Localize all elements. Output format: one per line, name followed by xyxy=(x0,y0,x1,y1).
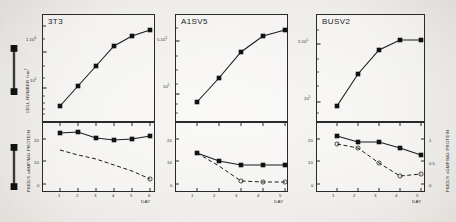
panel-3t3-lower-ytick-20: 20 xyxy=(34,138,39,143)
panel-busv2-upper-ytick-1e5: 105 xyxy=(304,95,310,101)
panel-3t3-upper-ytick-1e5: 105 xyxy=(30,77,36,83)
panel-3t3-lower-ytick-10: 10 xyxy=(34,160,39,165)
panel-busv2-upper-svg xyxy=(316,14,425,122)
panel-busv2-right-yaxis-label: PMOLS cGMP/MG PROTEIN xyxy=(445,130,450,193)
panel-a1sv5-xaxis-label: DAY xyxy=(274,199,283,204)
panel-a1sv5: A1SV5 5.105 105 20 10 0 DAY 1 2 3 4 5 xyxy=(155,0,305,222)
panel-busv2-xtick-5: 5 xyxy=(416,193,418,198)
panel-busv2-lower-svg xyxy=(316,122,425,192)
panel-3t3-upper-svg xyxy=(42,14,155,122)
panel-a1sv5-lower-svg xyxy=(175,122,288,192)
panel-busv2-lower-ytick-10: 10 xyxy=(308,160,313,165)
panel-3t3-upper-yaxis-label: CELL NUMBER /cm2 xyxy=(24,68,30,113)
panel-a1sv5-xtick-2: 2 xyxy=(213,193,215,198)
panel-a1sv5-xtick-3: 3 xyxy=(235,193,237,198)
panel-busv2-lower-ytick-20: 20 xyxy=(308,138,313,143)
panel-3t3-xtick-1: 1 xyxy=(58,193,60,198)
panel-a1sv5-upper-ytick-5e5: 5.105 xyxy=(157,36,167,42)
panel-busv2-xtick-2: 2 xyxy=(353,193,355,198)
panel-3t3-lower-yaxis-label: PMOLS cAMP/MG PROTEIN xyxy=(26,130,31,192)
panel-3t3-xaxis-label: DAY xyxy=(141,199,150,204)
panel-busv2-xtick-4: 4 xyxy=(395,193,397,198)
panel-busv2-xtick-3: 3 xyxy=(374,193,376,198)
panel-a1sv5-xtick-4: 4 xyxy=(257,193,259,198)
panel-3t3-lower-svg xyxy=(42,122,155,192)
panel-3t3-xtick-3: 3 xyxy=(94,193,96,198)
panel-3t3-xtick-5: 5 xyxy=(130,193,132,198)
panel-a1sv5-lower-ytick-20: 20 xyxy=(167,138,172,143)
panel-3t3-xtick-4: 4 xyxy=(112,193,114,198)
panel-3t3-xtick-2: 2 xyxy=(76,193,78,198)
panel-busv2-right-ytick-05: 0.5 xyxy=(429,161,435,166)
panel-busv2-xtick-1: 1 xyxy=(332,193,334,198)
panel-busv2-right-ytick-1: 1 xyxy=(429,138,431,143)
panel-busv2-xaxis-label: DAY xyxy=(412,199,421,204)
panel-3t3-xtick-6: 6 xyxy=(148,193,150,198)
figure-canvas: 3T3 1.106 105 CELL NUMBER /cm2 20 10 0 P… xyxy=(0,0,456,222)
panel-a1sv5-upper-ytick-1e5: 105 xyxy=(163,83,169,89)
panel-a1sv5-lower-ytick-0: 0 xyxy=(170,183,172,188)
panel-busv2-right-ytick-0: 0 xyxy=(429,183,431,188)
panel-busv2-upper-ytick-5e5: 5.105 xyxy=(298,38,308,44)
panel-3t3-lower-ytick-0: 0 xyxy=(37,183,39,188)
panel-3t3: 3T3 1.106 105 CELL NUMBER /cm2 20 10 0 P… xyxy=(0,0,160,222)
panel-busv2-lower-ytick-0: 0 xyxy=(311,183,313,188)
panel-a1sv5-xtick-5: 5 xyxy=(279,193,281,198)
panel-a1sv5-lower-ytick-10: 10 xyxy=(167,160,172,165)
panel-a1sv5-upper-svg xyxy=(175,14,288,122)
panel-busv2: BUSV2 5.105 105 20 10 0 1 0.5 0 PMOLS cG… xyxy=(296,0,456,222)
panel-3t3-upper-ytick-1e6: 1.106 xyxy=(26,36,36,42)
panel-a1sv5-xtick-1: 1 xyxy=(191,193,193,198)
